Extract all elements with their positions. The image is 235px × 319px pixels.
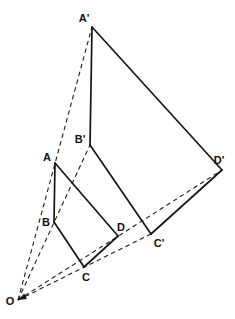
edge-Dp-Ap — [92, 27, 222, 170]
vertex-label-C: C — [82, 271, 90, 283]
vertex-label-Bp: B' — [75, 133, 86, 145]
dashed-rays-group — [18, 27, 222, 300]
edge-C-D — [84, 236, 118, 267]
vertex-label-O: O — [6, 295, 15, 307]
vertex-label-B: B — [42, 216, 50, 228]
edge-B-C — [54, 222, 84, 267]
edge-Cp-Dp — [151, 170, 222, 234]
vertex-label-Dp: D' — [214, 154, 225, 166]
dilation-figure: OABCDA'B'C'D' — [0, 0, 235, 319]
solid-edges-group — [54, 27, 222, 267]
vertex-label-D: D — [117, 221, 125, 233]
edge-D-A — [55, 163, 118, 236]
vertex-label-Cp: C' — [154, 237, 165, 249]
vertex-label-Ap: A' — [79, 12, 90, 24]
vertex-label-A: A — [43, 151, 51, 163]
vertex-labels-group: OABCDA'B'C'D' — [6, 12, 225, 307]
edge-A-B — [54, 163, 55, 222]
edge-Ap-Bp — [90, 27, 92, 145]
dilation-figure-svg: OABCDA'B'C'D' — [0, 0, 235, 319]
